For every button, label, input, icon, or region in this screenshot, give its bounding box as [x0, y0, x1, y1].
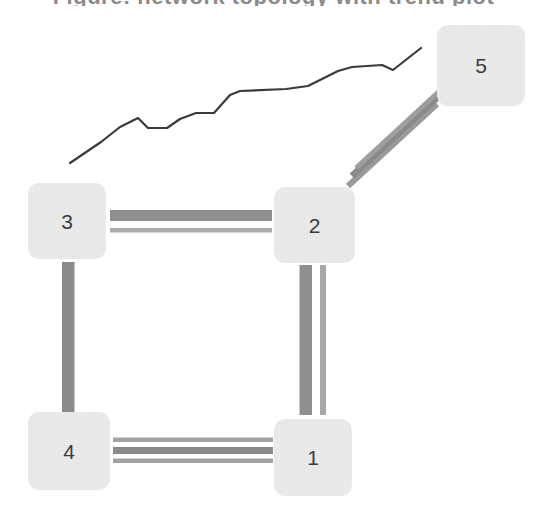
figure-title-remnant: Figure: network topology with trend plot — [0, 0, 547, 6]
trend-line-series — [70, 48, 421, 163]
edge-2-1 — [300, 265, 327, 415]
node-2-label: 2 — [309, 215, 321, 236]
node-4[interactable]: 4 — [28, 412, 110, 490]
edge-2-5 — [348, 85, 446, 186]
edge-3-4 — [62, 262, 75, 414]
node-1[interactable]: 1 — [274, 419, 352, 496]
node-3-label: 3 — [61, 211, 73, 232]
node-5[interactable]: 5 — [437, 25, 525, 106]
node-2[interactable]: 2 — [274, 187, 355, 263]
figure-canvas: Figure: network topology with trend plot — [0, 0, 547, 515]
node-3[interactable]: 3 — [28, 183, 106, 259]
edge-4-1 — [113, 438, 273, 464]
node-1-label: 1 — [307, 447, 319, 468]
node-4-label: 4 — [63, 441, 75, 462]
node-5-label: 5 — [475, 55, 487, 76]
edge-3-2 — [110, 210, 272, 233]
